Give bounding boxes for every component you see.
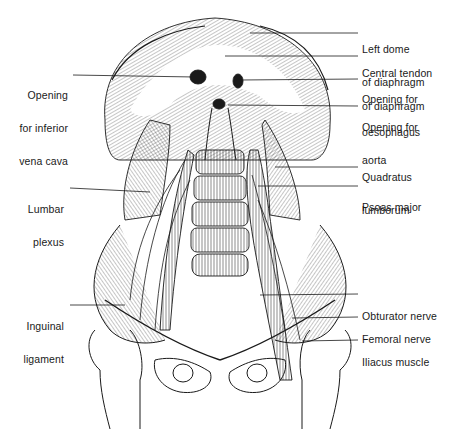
label-psoas-major: Psoas major [362, 180, 421, 224]
oesophageal-opening-shape [233, 74, 243, 88]
label-lumbar-plexus: Lumbar plexus [28, 182, 64, 259]
diaphragm [105, 18, 331, 160]
vertebral-column [191, 150, 249, 276]
label-inguinal-ligament: Inguinal ligament [24, 299, 65, 376]
label-iliacus-muscle: Iliacus muscle [362, 335, 429, 379]
label-ivc-opening: Opening for inferior vena cava [19, 68, 68, 178]
aortic-opening-shape [213, 99, 225, 109]
